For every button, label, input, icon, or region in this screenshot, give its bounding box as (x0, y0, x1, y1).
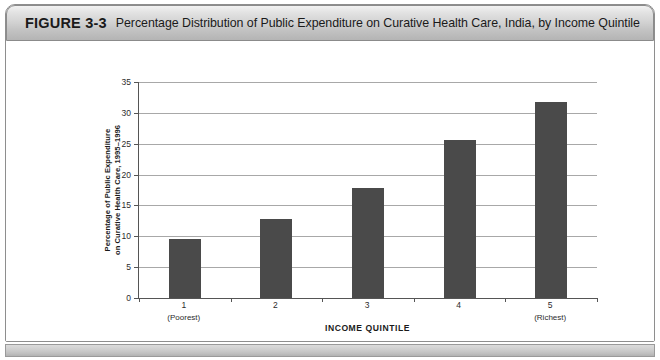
x-tick-label-group: 2 (230, 300, 320, 311)
figure-root: FIGURE 3-3 Percentage Distribution of Pu… (0, 0, 660, 360)
x-tick-label: 2 (230, 300, 320, 311)
bar (535, 102, 567, 298)
x-tick-label: 4 (414, 300, 504, 311)
y-gridline (139, 144, 597, 145)
bar (444, 140, 476, 298)
y-tick-label: 25 (122, 139, 131, 149)
y-tick-label: 35 (122, 77, 131, 87)
x-tick-label-group: 3 (322, 300, 412, 311)
y-tick-mark (134, 205, 139, 206)
bar (260, 219, 292, 298)
figure-title: Percentage Distribution of Public Expend… (116, 16, 640, 30)
x-tick-label: 5 (505, 300, 595, 311)
figure-footer-band (5, 344, 655, 357)
x-axis-tick-labels: 1(Poorest)2345(Richest) (138, 300, 597, 340)
figure-number: FIGURE 3-3 (25, 15, 107, 31)
y-tick-mark (134, 175, 139, 176)
x-tick-label-group: 4 (414, 300, 504, 311)
bar (169, 239, 201, 298)
figure-header: FIGURE 3-3 Percentage Distribution of Pu… (6, 5, 654, 41)
y-tick-mark (134, 267, 139, 268)
y-tick-label: 10 (122, 231, 131, 241)
y-gridline (139, 113, 597, 114)
bar (352, 188, 384, 298)
y-tick-label: 15 (122, 200, 131, 210)
y-tick-mark (134, 113, 139, 114)
y-tick-label: 0 (126, 293, 131, 303)
y-tick-label: 30 (122, 108, 131, 118)
x-tick-mark (597, 298, 598, 302)
y-tick-mark (134, 144, 139, 145)
y-gridline (139, 175, 597, 176)
y-tick-label: 20 (122, 170, 131, 180)
x-tick-label-group: 5(Richest) (505, 300, 595, 324)
y-gridline (139, 82, 597, 83)
plot-area: 05101520253035 (138, 82, 597, 299)
y-tick-mark (134, 82, 139, 83)
chart-plot-container: Percentage of Public Expenditure on Cura… (6, 42, 654, 341)
y-axis-title-line1: Percentage of Public Expenditure (103, 125, 113, 255)
x-axis-title: INCOME QUINTILE (138, 323, 597, 333)
x-tick-label: 3 (322, 300, 412, 311)
y-tick-label: 5 (126, 262, 131, 272)
y-tick-mark (134, 236, 139, 237)
x-tick-label-group: 1(Poorest) (139, 300, 229, 324)
x-tick-label: 1 (139, 300, 229, 311)
